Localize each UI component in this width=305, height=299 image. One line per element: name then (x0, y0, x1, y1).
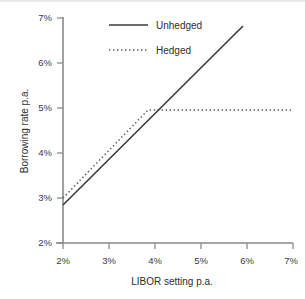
y-tick-label-2: 2% (38, 237, 52, 248)
chart-plot-area: 2% 3% 4% 5% 6% 7% 2% 3% 4% 5% 6% 7% LIBO… (0, 0, 305, 299)
x-tick-label-6: 6% (240, 255, 254, 266)
y-axis-title: Borrowing rate p.a. (19, 89, 30, 174)
chart-figure: 2% 3% 4% 5% 6% 7% 2% 3% 4% 5% 6% 7% LIBO… (0, 0, 305, 299)
x-tick-label-2: 2% (56, 255, 70, 266)
x-tick-label-3: 3% (102, 255, 116, 266)
y-tick-label-7: 7% (38, 12, 52, 23)
x-axis (56, 243, 293, 249)
legend-label-unhedged: Unhedged (156, 20, 202, 31)
series-unhedged-line (63, 26, 243, 205)
y-tick-label-4: 4% (38, 147, 52, 158)
chart-legend: Unhedged Hedged (109, 20, 202, 56)
series-hedged-line (63, 110, 293, 198)
y-tick-label-6: 6% (38, 57, 52, 68)
y-tick-label-5: 5% (38, 102, 52, 113)
x-axis-title: LIBOR setting p.a. (131, 276, 213, 287)
x-tick-label-5: 5% (194, 255, 208, 266)
y-tick-label-3: 3% (38, 192, 52, 203)
y-axis (57, 17, 63, 244)
x-tick-label-7: 7% (284, 255, 298, 266)
x-tick-label-4: 4% (148, 255, 162, 266)
legend-label-hedged: Hedged (156, 45, 191, 56)
